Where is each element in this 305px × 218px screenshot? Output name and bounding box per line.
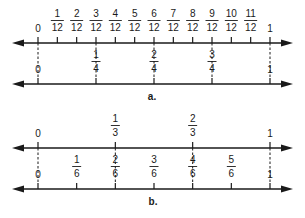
tick-label: 1 [267, 128, 273, 139]
fraction-label: 812 [186, 8, 199, 33]
arrow-right-icon [281, 40, 293, 47]
fraction-denominator: 6 [113, 168, 119, 179]
fraction-numerator: 3 [209, 49, 215, 60]
fraction-label: 34 [208, 49, 217, 74]
fraction-denominator: 6 [190, 168, 196, 179]
fraction-label: 712 [167, 8, 180, 33]
fraction-label: 56 [227, 154, 236, 179]
fraction-denominator: 12 [226, 22, 238, 33]
fraction-label: 24 [150, 49, 159, 74]
fraction-numerator: 10 [226, 8, 238, 19]
fraction-label: 112 [51, 8, 64, 33]
fraction-numerator: 5 [132, 8, 138, 19]
fraction-denominator: 4 [93, 63, 99, 74]
fraction-number-line-diagram: 0112212312412512612712812912101211121014… [0, 0, 305, 218]
fraction-denominator: 12 [90, 22, 102, 33]
fraction-numerator: 1 [55, 8, 61, 19]
fraction-denominator: 12 [52, 22, 64, 33]
fraction-numerator: 4 [113, 8, 119, 19]
fraction-denominator: 12 [71, 22, 83, 33]
fraction-label: 46 [188, 154, 197, 179]
fraction-numerator: 3 [151, 154, 157, 165]
tick-label: 1 [267, 23, 273, 34]
fraction-denominator: 4 [151, 63, 157, 74]
arrow-right-icon [281, 186, 293, 193]
fraction-label: 412 [109, 8, 122, 33]
fraction-label: 1112 [244, 8, 257, 33]
fraction-denominator: 12 [187, 22, 199, 33]
fraction-numerator: 2 [113, 154, 119, 165]
arrow-left-icon [12, 186, 24, 193]
fraction-denominator: 6 [229, 168, 235, 179]
arrow-left-icon [12, 145, 24, 152]
fraction-denominator: 3 [190, 127, 196, 138]
tick-label: 0 [35, 23, 41, 34]
fraction-denominator: 12 [168, 22, 180, 33]
fraction-numerator: 9 [209, 8, 215, 19]
fraction-denominator: 12 [245, 22, 257, 33]
fraction-label: 14 [92, 49, 101, 74]
fraction-label: 1012 [225, 8, 238, 33]
fraction-denominator: 12 [148, 22, 160, 33]
fraction-denominator: 3 [113, 127, 119, 138]
fraction-denominator: 4 [209, 63, 215, 74]
fraction-numerator: 1 [113, 113, 119, 124]
fraction-numerator: 2 [190, 113, 196, 124]
fraction-numerator: 8 [190, 8, 196, 19]
fraction-denominator: 12 [110, 22, 122, 33]
arrow-right-icon [281, 145, 293, 152]
fraction-label: 13 [111, 113, 120, 138]
fraction-label: 26 [111, 154, 120, 179]
fraction-denominator: 6 [74, 168, 80, 179]
number-line-group-b: 013231016263646561b. [12, 113, 293, 207]
fraction-label: 23 [188, 113, 197, 138]
fraction-numerator: 4 [190, 154, 196, 165]
tick-label: 1 [267, 64, 273, 75]
fraction-label: 912 [206, 8, 219, 33]
fraction-numerator: 2 [74, 8, 80, 19]
fraction-denominator: 6 [151, 168, 157, 179]
fraction-numerator: 1 [74, 154, 80, 165]
number-lines-figure: 0112212312412512612712812912101211121014… [0, 0, 305, 218]
fraction-numerator: 2 [151, 49, 157, 60]
fraction-label: 512 [128, 8, 141, 33]
fraction-numerator: 3 [93, 8, 99, 19]
tick-label: 0 [35, 169, 41, 180]
tick-label: 0 [35, 64, 41, 75]
fraction-label: 16 [72, 154, 81, 179]
arrow-left-icon [12, 40, 24, 47]
fraction-denominator: 12 [206, 22, 218, 33]
fraction-numerator: 1 [93, 49, 99, 60]
fraction-numerator: 7 [171, 8, 177, 19]
fraction-denominator: 12 [129, 22, 141, 33]
fraction-numerator: 6 [151, 8, 157, 19]
fraction-label: 212 [70, 8, 83, 33]
number-line-group-a: 0112212312412512612712812912101211121014… [12, 8, 293, 102]
fraction-numerator: 11 [245, 8, 256, 19]
part-caption: a. [148, 91, 157, 102]
tick-label: 0 [35, 128, 41, 139]
part-caption: b. [149, 196, 158, 207]
fraction-label: 36 [150, 154, 159, 179]
arrow-left-icon [12, 81, 24, 88]
tick-label: 1 [267, 169, 273, 180]
fraction-label: 312 [90, 8, 103, 33]
fraction-numerator: 5 [229, 154, 235, 165]
fraction-label: 612 [148, 8, 161, 33]
arrow-right-icon [281, 81, 293, 88]
